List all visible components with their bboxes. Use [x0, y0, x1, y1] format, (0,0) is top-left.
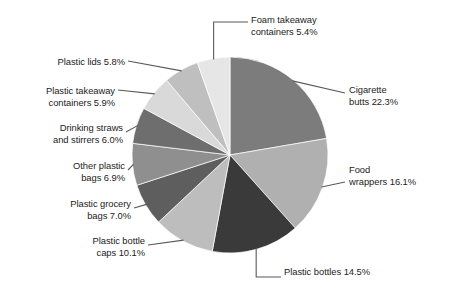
pie-chart-figure: Foam takeaway containers 5.4% Cigarette … — [0, 0, 450, 293]
pie-slice-group — [132, 57, 328, 253]
leader-line-plastic-grocery-bags — [134, 204, 147, 208]
callout-label-plastic-lids: Plastic lids 5.8% — [0, 56, 125, 68]
leader-line-plastic-takeaway-containers — [118, 90, 155, 94]
leader-line-plastic-lids — [128, 61, 182, 71]
leader-line-plastic-bottle-caps — [148, 240, 184, 245]
pie-slice-cigarette-butts[interactable] — [230, 57, 327, 155]
leader-line-plastic-bottles — [256, 248, 281, 277]
callout-label-plastic-bottles: Plastic bottles 14.5% — [284, 266, 370, 278]
callout-label-food-wrappers: Food wrappers 16.1% — [349, 164, 416, 187]
leader-line-foam-takeaway-containers — [214, 22, 248, 59]
callout-label-cigarette-butts: Cigarette butts 22.3% — [349, 84, 398, 107]
callout-label-plastic-takeaway-containers: Plastic takeaway containers 5.9% — [0, 85, 115, 108]
leader-line-food-wrappers — [322, 182, 345, 187]
callout-label-drinking-straws-and-stirrers: Drinking straws and stirrers 6.0% — [0, 122, 123, 145]
callout-label-other-plastic-bags: Other plastic bags 6.9% — [0, 160, 125, 183]
callout-label-plastic-bottle-caps: Plastic bottle caps 10.1% — [0, 235, 145, 258]
callout-label-foam-takeaway-containers: Foam takeaway containers 5.4% — [251, 14, 317, 37]
callout-label-plastic-grocery-bags: Plastic grocery bags 7.0% — [0, 198, 131, 221]
